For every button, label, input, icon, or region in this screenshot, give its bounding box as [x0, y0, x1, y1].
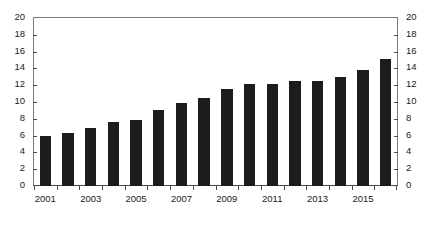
x-tick-mark — [284, 186, 285, 190]
bar-2013 — [312, 81, 323, 186]
x-tick-mark — [193, 186, 194, 190]
bar-2002 — [62, 133, 73, 186]
x-tick-label-2009: 2009 — [216, 194, 237, 204]
x-tick-mark — [57, 186, 58, 190]
x-tick-label-2015: 2015 — [352, 194, 373, 204]
bar-2015 — [357, 70, 368, 186]
bar-2011 — [267, 84, 278, 186]
bar-2009 — [221, 89, 232, 186]
y-tick-label-left: 2 — [20, 163, 25, 173]
y-tick-label-right: 2 — [406, 163, 411, 173]
y-tick-label-left: 14 — [14, 62, 25, 72]
bar-2012 — [289, 81, 300, 186]
y-tick-label-right: 12 — [406, 79, 417, 89]
y-tick-label-left: 16 — [14, 46, 25, 56]
bar-2005 — [130, 120, 141, 186]
bar-2001 — [40, 136, 51, 186]
x-tick-mark — [352, 186, 353, 190]
y-tick-label-left: 18 — [14, 29, 25, 39]
y-axis-right: 02468101214161820 — [400, 17, 430, 186]
y-tick-label-left: 4 — [20, 146, 25, 156]
y-tick-label-right: 10 — [406, 96, 417, 106]
x-tick-mark — [238, 186, 239, 190]
y-tick-label-left: 20 — [14, 12, 25, 22]
bar-2014 — [335, 77, 346, 186]
y-tick-label-right: 14 — [406, 62, 417, 72]
y-tick-label-left: 10 — [14, 96, 25, 106]
bar-2016 — [380, 59, 391, 186]
x-tick-label-2005: 2005 — [126, 194, 147, 204]
x-tick-label-2003: 2003 — [80, 194, 101, 204]
x-tick-mark — [374, 186, 375, 190]
x-tick-mark — [329, 186, 330, 190]
y-tick-label-right: 20 — [406, 12, 417, 22]
x-tick-label-2011: 2011 — [262, 194, 282, 204]
y-tick-label-right: 16 — [406, 46, 417, 56]
x-tick-mark — [125, 186, 126, 190]
x-tick-mark — [147, 186, 148, 190]
bar-2006 — [153, 110, 164, 186]
y-axis-left: 02468101214161820 — [0, 17, 30, 186]
bar-2004 — [108, 122, 119, 186]
x-tick-mark — [396, 186, 397, 190]
bar-chart: 02468101214161820 02468101214161820 2001… — [0, 0, 432, 230]
x-tick-label-2007: 2007 — [171, 194, 192, 204]
y-tick-label-left: 0 — [20, 180, 25, 190]
bar-2007 — [176, 103, 187, 186]
x-tick-label-2013: 2013 — [307, 194, 328, 204]
y-tick-label-right: 18 — [406, 29, 417, 39]
y-tick-label-left: 12 — [14, 79, 25, 89]
x-tick-mark — [79, 186, 80, 190]
x-tick-mark — [34, 186, 35, 190]
y-tick-label-right: 6 — [406, 130, 411, 140]
y-tick-label-right: 4 — [406, 146, 411, 156]
bar-2010 — [244, 84, 255, 186]
y-tick-label-left: 6 — [20, 130, 25, 140]
y-tick-label-left: 8 — [20, 113, 25, 123]
y-tick-label-right: 0 — [406, 180, 411, 190]
bar-2008 — [198, 98, 209, 186]
bar-2003 — [85, 128, 96, 186]
x-tick-mark — [306, 186, 307, 190]
x-tick-mark — [216, 186, 217, 190]
x-tick-mark — [102, 186, 103, 190]
y-tick-label-right: 8 — [406, 113, 411, 123]
x-tick-label-2001: 2001 — [35, 194, 56, 204]
x-tick-mark — [170, 186, 171, 190]
x-tick-mark — [261, 186, 262, 190]
caption-text — [0, 216, 432, 230]
bars-container — [34, 18, 397, 186]
